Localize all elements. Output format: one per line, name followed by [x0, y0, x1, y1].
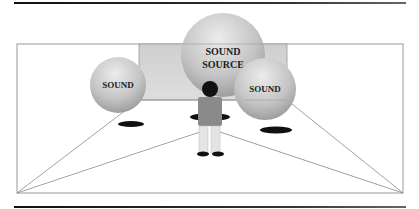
top-rule: [14, 2, 406, 4]
sound-sphere-left: SOUND: [90, 57, 146, 113]
bottom-rule: [14, 206, 406, 208]
sound-right-label: SOUND: [249, 84, 281, 94]
shadow-right: [260, 127, 292, 134]
listener-leg-right: [211, 126, 220, 153]
listener-head: [202, 81, 218, 97]
sound-space-diagram: SOUND SOUND SOURCE SOUND: [0, 0, 419, 209]
listener-leg-left: [199, 126, 208, 153]
listener-foot-right: [212, 152, 224, 157]
listener-foot-left: [197, 152, 209, 157]
sound-sphere-right: SOUND: [234, 58, 296, 120]
listener-torso: [198, 97, 222, 126]
sound-source-label-line2: SOURCE: [202, 59, 244, 70]
sound-source-label-line1: SOUND: [205, 46, 240, 57]
sound-left-label: SOUND: [102, 80, 134, 90]
shadow-left: [118, 121, 144, 127]
